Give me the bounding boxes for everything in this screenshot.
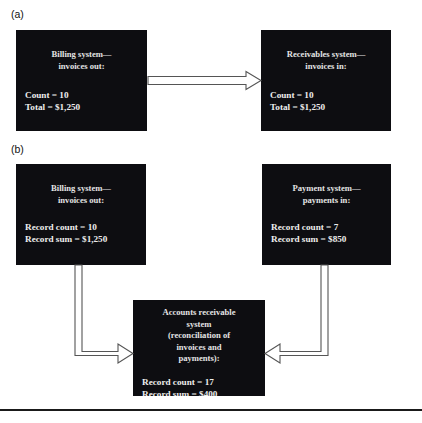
node-stat-line: Record sum = $400: [142, 388, 265, 397]
node-title: Receivables system— invoices in:: [261, 49, 391, 72]
node-stats: Record count = 7 Record sum = $850: [262, 221, 391, 245]
node-title-line: Accounts receivable: [139, 307, 259, 319]
node-title: Billing system— invoices out:: [16, 49, 147, 72]
node-stats: Count = 10 Total = $1,250: [16, 89, 147, 113]
node-title-line: Billing system—: [22, 49, 141, 61]
node-stat-line: Record sum = $850: [271, 233, 391, 245]
node-title-line: invoices and: [139, 342, 259, 354]
node-title-line: invoices out:: [22, 61, 141, 73]
node-stat-line: Record count = 7: [271, 221, 391, 233]
node-title-line: payments in:: [268, 195, 385, 207]
billing-to-ar-arrow: [75, 265, 133, 363]
billing-to-receivables-arrow: [148, 72, 261, 90]
bottom-rule: [0, 409, 422, 411]
node-title-line: Receivables system—: [267, 49, 385, 61]
node-title-line: (reconciliation of: [139, 330, 259, 342]
node-stats: Count = 10 Total = $1,250: [261, 89, 391, 113]
node-stat-line: Record count = 17: [142, 376, 265, 388]
billing-system-node-a: Billing system— invoices out: Count = 10…: [16, 30, 147, 131]
node-stat-line: Total = $1,250: [25, 101, 147, 113]
node-stat-line: Record sum = $1,250: [25, 233, 146, 245]
node-stat-line: Count = 10: [270, 89, 391, 101]
node-stats: Record count = 17 Record sum = $400: [133, 376, 265, 397]
node-title-line: invoices out:: [22, 195, 140, 207]
payment-system-node-b: Payment system— payments in: Record coun…: [262, 164, 391, 265]
node-title: Payment system— payments in:: [262, 183, 391, 206]
node-title-line: payments):: [139, 353, 259, 365]
node-stat-line: Count = 10: [25, 89, 147, 101]
panel-label-a: (a): [11, 8, 24, 20]
accounts-receivable-node-b: Accounts receivable system (reconciliati…: [133, 300, 265, 396]
node-title-line: system: [139, 319, 259, 331]
payment-to-ar-arrow: [265, 265, 328, 363]
node-stat-line: Total = $1,250: [270, 101, 391, 113]
billing-system-node-b: Billing system— invoices out: Record cou…: [16, 164, 146, 265]
node-title-line: Payment system—: [268, 183, 385, 195]
node-title-line: invoices in:: [267, 61, 385, 73]
node-title-line: Billing system—: [22, 183, 140, 195]
panel-label-b: (b): [11, 143, 24, 155]
node-stat-line: Record count = 10: [25, 221, 146, 233]
node-title: Accounts receivable system (reconciliati…: [133, 307, 265, 365]
node-title: Billing system— invoices out:: [16, 183, 146, 206]
figure-canvas: (a) Billing system— invoices out: Count …: [0, 0, 422, 423]
receivables-system-node-a: Receivables system— invoices in: Count =…: [261, 30, 391, 131]
node-stats: Record count = 10 Record sum = $1,250: [16, 221, 146, 245]
